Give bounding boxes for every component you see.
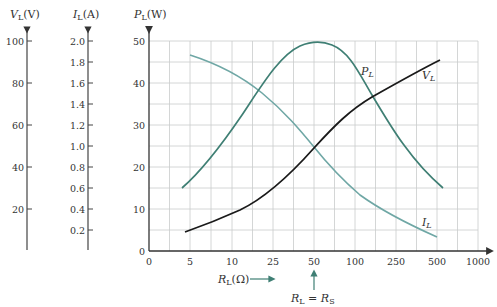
vl-axis-title: VL(V) [10,8,40,22]
pl-tick-label: 50 [133,36,145,47]
vl-tick-label: 100 [6,36,24,47]
pl-curve-label: PL [360,65,374,79]
il-ticks: 2.0 1.8 1.6 1.4 1.2 1.0 0.8 0.6 0.4 0.2 [70,36,93,236]
il-tick-label: 0.8 [70,162,85,173]
vl-tick-label: 80 [12,78,24,89]
vl-curve-label: VL [422,69,435,83]
power-transfer-chart: VL(V) 100 80 60 40 20 IL(A) [0,0,497,307]
pl-tick-label: 0 [139,246,145,257]
x-axis-title: RL(Ω) [217,273,249,287]
x-tick-label: 250 [387,256,405,267]
vl-tick-label: 40 [12,162,24,173]
il-tick-label: 1.0 [70,141,85,152]
pl-tick-label: 10 [133,204,145,215]
max-power-annotation: RL = RS [290,273,335,306]
x-tick-label: 100 [346,256,364,267]
il-axis: IL(A) 2.0 1.8 1.6 1.4 1.2 1.0 0.8 0.6 0.… [70,8,99,250]
x-tick-label: 50 [308,256,320,267]
pl-tick-label: 20 [133,162,145,173]
il-tick-label: 1.8 [70,57,85,68]
x-tick-label: 10 [226,256,238,267]
x-tick-label: 25 [267,256,279,267]
x-tick-label: 0 [146,256,152,267]
pl-tick-label: 30 [133,120,145,131]
x-axis: 0 5 10 25 50 100 250 500 1000 RL(Ω) [146,251,490,287]
il-tick-label: 0.6 [70,183,85,194]
il-tick-label: 0.4 [70,204,85,215]
il-tick-label: 0.2 [70,225,85,236]
il-curve-label: IL [421,216,432,230]
pl-tick-label: 40 [133,78,145,89]
pl-axis-title: PL(W) [133,8,167,22]
il-tick-label: 2.0 [70,36,85,47]
vl-tick-label: 20 [12,204,24,215]
pl-curve [182,42,443,188]
match-condition-label: RL = RS [290,292,335,306]
vl-axis: VL(V) 100 80 60 40 20 [6,8,40,250]
il-tick-label: 1.4 [70,99,85,110]
x-tick-label: 5 [187,256,193,267]
x-tick-label: 500 [428,256,446,267]
vl-ticks: 100 80 60 40 20 [6,36,32,215]
x-tick-label: 1000 [466,256,490,267]
pl-axis: PL(W) 50 40 30 20 10 0 [133,8,167,257]
il-tick-label: 1.2 [70,120,85,131]
il-axis-title: IL(A) [72,8,99,22]
vl-tick-label: 60 [12,120,24,131]
il-tick-label: 1.6 [70,78,85,89]
